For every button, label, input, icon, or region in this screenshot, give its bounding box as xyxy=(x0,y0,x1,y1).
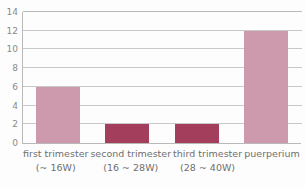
x-axis-category-label: third trimester(28 ~ 40W) xyxy=(172,146,243,188)
x-axis-category-label: first trimester(~ 16W) xyxy=(22,146,89,188)
y-axis-tick-label: 14 xyxy=(7,8,18,17)
y-axis-tick-label: 2 xyxy=(12,120,18,129)
x-axis: first trimester(~ 16W)second trimester(1… xyxy=(22,146,301,188)
bar-chart: 14121086420 first trimester(~ 16W)second… xyxy=(0,0,305,188)
bar-slot xyxy=(162,12,232,143)
x-axis-category-label: puerperium xyxy=(243,146,301,188)
bar-slot xyxy=(93,12,163,143)
bar[interactable] xyxy=(105,124,149,143)
x-axis-label-line2: (16 ~ 28W) xyxy=(90,161,171,175)
bar-slot xyxy=(232,12,302,143)
x-axis-label-line2: (28 ~ 40W) xyxy=(173,161,242,175)
x-axis-label-line1: third trimester xyxy=(173,146,242,161)
bar[interactable] xyxy=(36,87,80,143)
bar-slot xyxy=(23,12,93,143)
x-axis-label-line1: second trimester xyxy=(90,146,171,161)
bar[interactable] xyxy=(244,31,288,143)
x-axis-label-line1: puerperium xyxy=(244,146,300,161)
y-axis-tick-label: 4 xyxy=(12,101,18,110)
y-axis-tick-label: 10 xyxy=(7,45,18,54)
y-axis: 14121086420 xyxy=(0,0,22,148)
bars-group xyxy=(23,12,301,143)
bar[interactable] xyxy=(175,124,219,143)
y-axis-tick-label: 8 xyxy=(12,64,18,73)
plot-area xyxy=(22,12,301,144)
x-axis-label-line2: (~ 16W) xyxy=(23,161,88,175)
x-axis-category-label: second trimester(16 ~ 28W) xyxy=(89,146,172,188)
y-axis-tick-label: 12 xyxy=(7,26,18,35)
x-axis-label-line1: first trimester xyxy=(23,146,88,161)
y-axis-tick-label: 0 xyxy=(12,139,18,148)
y-axis-tick-label: 6 xyxy=(12,82,18,91)
